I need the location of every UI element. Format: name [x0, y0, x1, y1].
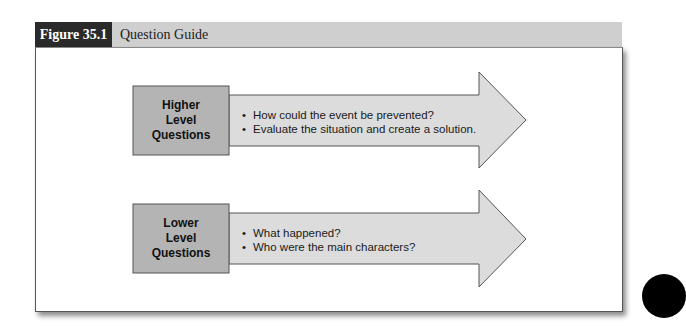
box-label-line: Higher: [152, 98, 211, 113]
box-label-line: Lower: [152, 216, 211, 231]
page-edge-dot-icon: [642, 274, 686, 318]
bullet-item: How could the event be prevented?: [240, 108, 476, 122]
lower-level-questions-box: Lower Level Questions: [133, 204, 229, 273]
higher-level-questions-box: Higher Level Questions: [133, 86, 229, 155]
lower-level-bullet-list: What happened? Who were the main charact…: [240, 226, 415, 254]
bullet-item: What happened?: [240, 226, 415, 240]
bullet-item: Who were the main characters?: [240, 240, 415, 254]
box-label-line: Questions: [152, 128, 211, 143]
higher-level-bullet-list: How could the event be prevented? Evalua…: [240, 108, 476, 136]
bullet-item: Evaluate the situation and create a solu…: [240, 122, 476, 136]
box-label-line: Level: [152, 113, 211, 128]
box-label-line: Questions: [152, 246, 211, 261]
box-label-line: Level: [152, 231, 211, 246]
